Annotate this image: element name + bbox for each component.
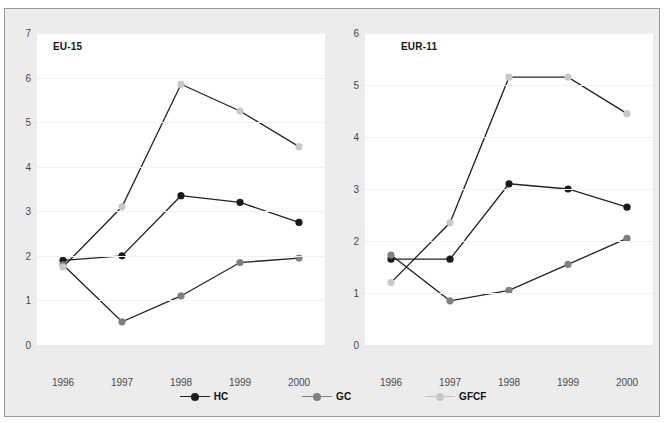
legend-label-gc: GC xyxy=(336,391,351,402)
x-axis-tick-eu15-2000: 2000 xyxy=(279,377,319,388)
y-axis-tick-eu15-7: 7 xyxy=(13,28,31,39)
series-line-eu15-hc xyxy=(63,196,299,261)
gridline-eu15-2 xyxy=(37,256,325,257)
x-axis-tick-eu15-1997: 1997 xyxy=(102,377,142,388)
y-axis-tick-eur11-3: 3 xyxy=(341,184,359,195)
data-point-eur11-gfcf-1996 xyxy=(387,279,394,286)
data-point-eu15-hc-2000 xyxy=(295,219,302,226)
data-point-eu15-hc-1998 xyxy=(177,192,184,199)
x-axis-tick-eur11-2000: 2000 xyxy=(607,377,647,388)
x-axis-tick-eur11-1996: 1996 xyxy=(371,377,411,388)
gridline-eur11-4 xyxy=(365,137,653,138)
y-axis-tick-eu15-3: 3 xyxy=(13,206,31,217)
series-line-eur11-hc xyxy=(391,184,627,259)
y-axis-tick-eu15-5: 5 xyxy=(13,117,31,128)
line-marker-icon xyxy=(425,392,455,402)
y-axis-tick-eu15-2: 2 xyxy=(13,250,31,261)
data-point-eu15-gfcf-1997 xyxy=(118,203,125,210)
chart-panel-eur11: 012345619961997199819992000 xyxy=(341,33,653,345)
plot-area-eur11 xyxy=(365,33,653,345)
line-marker-icon xyxy=(180,392,210,402)
gridline-eu15-6 xyxy=(37,78,325,79)
data-point-eur11-gc-1996 xyxy=(387,251,394,258)
gridline-eu15-3 xyxy=(37,211,325,212)
data-point-eur11-gfcf-1999 xyxy=(564,74,571,81)
panel-title-eu15: EU-15 xyxy=(53,41,82,52)
legend-marker-hc xyxy=(191,393,199,401)
data-point-eu15-gfcf-2000 xyxy=(295,143,302,150)
x-axis-tick-eur11-1999: 1999 xyxy=(548,377,588,388)
series-line-eur11-gfcf xyxy=(391,77,627,282)
data-point-eu15-gfcf-1996 xyxy=(59,263,66,270)
y-axis-tick-eu15-4: 4 xyxy=(13,161,31,172)
data-point-eu15-gfcf-1999 xyxy=(236,107,243,114)
chart-legend: HCGCGFCF xyxy=(5,391,661,402)
y-axis-tick-eu15-6: 6 xyxy=(13,72,31,83)
data-point-eur11-gc-1999 xyxy=(564,261,571,268)
y-axis-tick-eur11-2: 2 xyxy=(341,236,359,247)
gridline-eur11-2 xyxy=(365,241,653,242)
gridline-eu15-4 xyxy=(37,167,325,168)
plot-area-eu15 xyxy=(37,33,325,345)
data-point-eur11-gfcf-2000 xyxy=(623,110,630,117)
y-axis-tick-eu15-1: 1 xyxy=(13,295,31,306)
data-point-eur11-hc-2000 xyxy=(623,204,630,211)
y-axis-tick-eur11-1: 1 xyxy=(341,288,359,299)
legend-item-gfcf: GFCF xyxy=(425,391,486,402)
x-axis-tick-eu15-1998: 1998 xyxy=(161,377,201,388)
series-line-eu15-gfcf xyxy=(63,84,299,267)
figure-caption-clipped xyxy=(0,0,666,3)
y-axis-tick-eur11-0: 0 xyxy=(341,340,359,351)
gridline-eur11-5 xyxy=(365,85,653,86)
y-axis-tick-eur11-5: 5 xyxy=(341,80,359,91)
gridline-eu15-1 xyxy=(37,300,325,301)
data-point-eu15-gc-1998 xyxy=(177,292,184,299)
gridline-eur11-3 xyxy=(365,189,653,190)
x-axis-tick-eu15-1996: 1996 xyxy=(43,377,83,388)
legend-item-gc: GC xyxy=(302,391,351,402)
y-axis-tick-eur11-4: 4 xyxy=(341,132,359,143)
data-point-eu15-gc-1997 xyxy=(118,318,125,325)
line-marker-icon xyxy=(302,392,332,402)
data-point-eur11-gfcf-1997 xyxy=(446,219,453,226)
data-point-eu15-gfcf-1998 xyxy=(177,81,184,88)
figure-frame: 0123456719961997199819992000 EU-15 01234… xyxy=(4,8,660,417)
legend-item-hc: HC xyxy=(180,391,228,402)
gridline-eur11-1 xyxy=(365,293,653,294)
legend-label-gfcf: GFCF xyxy=(459,391,486,402)
data-point-eu15-hc-1999 xyxy=(236,199,243,206)
x-axis-tick-eur11-1997: 1997 xyxy=(430,377,470,388)
data-point-eur11-gc-1997 xyxy=(446,297,453,304)
gridline-eur11-6 xyxy=(365,33,653,34)
gridline-eu15-5 xyxy=(37,122,325,123)
series-layer-eu15 xyxy=(37,33,325,345)
y-axis-tick-eur11-6: 6 xyxy=(341,28,359,39)
legend-marker-gfcf xyxy=(436,393,444,401)
x-axis-tick-eur11-1998: 1998 xyxy=(489,377,529,388)
data-point-eur11-hc-1997 xyxy=(446,256,453,263)
data-point-eu15-gc-1999 xyxy=(236,259,243,266)
data-point-eur11-hc-1998 xyxy=(505,180,512,187)
y-axis-tick-eu15-0: 0 xyxy=(13,340,31,351)
series-line-eu15-gc xyxy=(63,258,299,322)
figure-container: 0123456719961997199819992000 EU-15 01234… xyxy=(0,0,666,423)
panel-title-eur11: EUR-11 xyxy=(401,41,437,52)
data-point-eur11-gfcf-1998 xyxy=(505,74,512,81)
x-axis-tick-eu15-1999: 1999 xyxy=(220,377,260,388)
legend-marker-gc xyxy=(313,393,321,401)
legend-label-hc: HC xyxy=(214,391,228,402)
gridline-eu15-7 xyxy=(37,33,325,34)
chart-panel-eu15: 0123456719961997199819992000 xyxy=(13,33,325,345)
